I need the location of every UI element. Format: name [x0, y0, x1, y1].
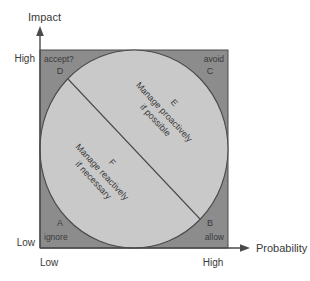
y-axis-high-label: High [14, 53, 35, 64]
risk-matrix-diagram: Impact Probability High Low Low High acc… [0, 0, 310, 281]
corner-letter-a: A [57, 218, 63, 228]
x-axis-low-label: Low [40, 257, 59, 268]
risk-matrix-canvas: Impact Probability High Low Low High acc… [0, 0, 310, 281]
x-axis-arrowhead [240, 244, 250, 252]
corner-label-avoid: avoid [204, 54, 225, 64]
corner-label-accept: accept? [44, 54, 74, 64]
corner-letter-d: D [57, 66, 64, 76]
corner-letter-b: B [207, 218, 213, 228]
corner-letter-c: C [207, 66, 214, 76]
y-axis-arrowhead [36, 26, 44, 36]
x-axis-title: Probability [256, 242, 308, 254]
y-axis-low-label: Low [17, 237, 36, 248]
y-axis-title: Impact [28, 11, 61, 23]
corner-label-ignore: ignore [44, 232, 68, 242]
corner-label-allow: allow [205, 232, 225, 242]
x-axis-high-label: High [203, 257, 224, 268]
